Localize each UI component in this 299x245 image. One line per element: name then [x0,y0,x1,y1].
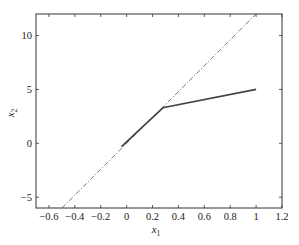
y-tick-label: 5 [27,84,32,95]
x-tick-label: 0 [124,211,129,222]
x-tick-label: −0.2 [91,211,110,222]
line-chart: −0.6−0.4−0.200.20.40.60.811.2−50510 x1 x… [0,0,299,245]
x-tick-label: 0.2 [146,211,159,222]
y-tick-label: −5 [21,192,32,203]
x-axis-label: x1 [151,223,161,238]
y-axis-label: x2 [4,108,19,118]
y-tick-label: 10 [22,30,33,41]
x-tick-label: 0.6 [198,211,211,222]
x-tick-label: −0.6 [39,211,58,222]
chart-canvas: −0.6−0.4−0.200.20.40.60.811.2−50510 x1 x… [0,0,299,245]
x-tick-label: −0.4 [65,211,85,222]
x-tick-label: 0.4 [172,211,186,222]
x-tick-label: 1.2 [275,211,288,222]
x-tick-label: 1 [253,211,258,222]
y-tick-label: 0 [27,138,32,149]
x-tick-label: 0.8 [224,211,237,222]
